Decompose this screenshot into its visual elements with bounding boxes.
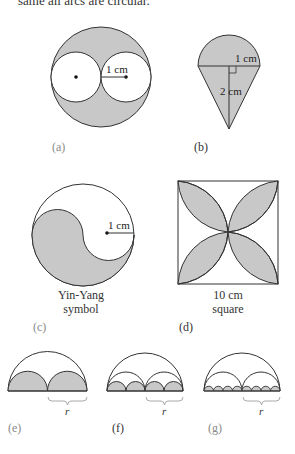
- dimension-label-a: 1 cm: [106, 63, 128, 75]
- brace-f: [146, 397, 183, 405]
- caption-c-line2: symbol: [50, 302, 112, 316]
- brace-label-g: r: [259, 405, 264, 417]
- brace-g: [243, 397, 280, 405]
- brace-e: [48, 397, 87, 405]
- caption-d-line1: 10 cm: [198, 288, 258, 302]
- figure-label-a: (a): [52, 140, 65, 155]
- figure-label-c: (c): [33, 320, 46, 335]
- caption-c-line1: Yin-Yang: [50, 288, 112, 302]
- dimension-label-b-height: 2 cm: [220, 85, 242, 97]
- caption-d-line2: square: [198, 302, 258, 316]
- brace-label-e: r: [65, 405, 70, 417]
- figure-g: r: [204, 353, 280, 417]
- caption-d: 10 cm square: [198, 288, 258, 316]
- brace-label-f: r: [162, 405, 167, 417]
- figure-label-d: (d): [179, 320, 193, 335]
- figure-f: r: [107, 353, 183, 417]
- center-dot-left: [74, 75, 78, 79]
- dimension-label-b-radius: 1 cm: [235, 52, 257, 64]
- caption-c: Yin-Yang symbol: [50, 288, 112, 316]
- figure-a: 1 cm: [51, 27, 151, 127]
- figure-d: [178, 181, 278, 284]
- figure-c: 1 cm: [32, 184, 134, 286]
- figure-label-b: (b): [194, 140, 208, 155]
- figures-canvas: 1 cm 1 cm 2 cm 1 cm: [0, 0, 295, 454]
- figure-label-g: (g): [208, 421, 222, 436]
- dimension-label-c: 1 cm: [108, 219, 130, 231]
- figure-label-f: (f): [112, 421, 124, 436]
- figure-label-e: (e): [8, 421, 21, 436]
- figure-b: 1 cm 2 cm: [198, 35, 260, 129]
- figure-e: r: [8, 352, 87, 418]
